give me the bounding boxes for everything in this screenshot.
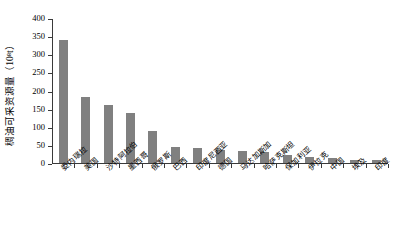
y-axis-tick-label: 400 [15, 13, 45, 24]
y-axis-tick: 350 [48, 37, 52, 38]
y-axis-tick: 250 [48, 73, 52, 74]
y-axis-tick-label: 0 [15, 158, 45, 169]
y-axis-tick-label: 100 [15, 122, 45, 133]
y-axis-tick: 300 [48, 55, 52, 56]
y-axis-tick-label: 300 [15, 49, 45, 60]
y-axis-tick-label: 150 [15, 104, 45, 115]
x-axis-category-labels: 委内瑞拉美国沙特阿拉伯墨西哥俄罗斯巴西印度尼西亚德国马达加斯加哈萨克斯坦保加利亚… [52, 166, 395, 227]
y-axis-tick-label: 350 [15, 31, 45, 42]
y-axis-tick: 150 [48, 110, 52, 111]
y-axis-tick-label: 50 [15, 140, 45, 151]
y-axis-tick: 100 [48, 128, 52, 129]
y-axis-tick: 400 [48, 19, 52, 20]
y-axis-tick: 0 [48, 164, 52, 165]
y-axis-tick: 50 [48, 146, 52, 147]
bar [104, 105, 113, 163]
bar [59, 40, 68, 163]
y-axis-tick-label: 200 [15, 86, 45, 97]
y-axis-line [52, 19, 53, 164]
heavy-oil-reserves-bar-chart: 稠油可采资源量（10⁸t） 050100150200250300350400 委… [0, 0, 395, 227]
y-axis-tick: 200 [48, 92, 52, 93]
y-axis-tick-label: 250 [15, 67, 45, 78]
